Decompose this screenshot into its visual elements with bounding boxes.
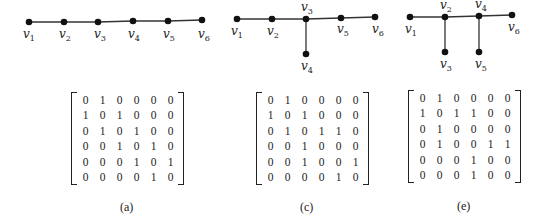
vertex-label: v5 <box>337 22 349 38</box>
matrix-cell: 0 <box>347 94 364 106</box>
right-bracket <box>515 90 521 183</box>
graph-edge <box>98 21 133 22</box>
matrix-cell: 0 <box>279 140 296 152</box>
graph-edge <box>306 18 341 19</box>
matrix-cell: 0 <box>482 107 499 119</box>
matrix-cell: 1 <box>94 94 111 106</box>
matrix-cell: 0 <box>414 92 431 104</box>
matrix-cell: 0 <box>128 140 145 152</box>
matrix-cell: 1 <box>482 138 499 150</box>
matrix-cell: 0 <box>499 154 516 166</box>
matrix-row: 010000 <box>414 90 516 106</box>
panel-caption-a: (a) <box>120 200 133 215</box>
matrix-cell: 0 <box>262 156 279 168</box>
vertex-label: v1 <box>231 24 243 40</box>
graph-vertex <box>234 16 241 23</box>
matrix-cell: 0 <box>330 156 347 168</box>
matrix-cell: 0 <box>162 140 179 152</box>
matrix-row: 010100 <box>77 123 179 139</box>
vertex-label: v6 <box>372 22 384 38</box>
matrix-row: 000010 <box>77 170 179 186</box>
graph-vertex <box>407 14 414 21</box>
matrix-row: 000100 <box>414 152 516 168</box>
matrix-cell: 1 <box>94 125 111 137</box>
matrix-cell: 0 <box>77 94 94 106</box>
matrix-row: 101000 <box>77 108 179 124</box>
graph-vertex <box>130 18 137 25</box>
matrix-row: 010000 <box>262 92 364 108</box>
graph-vertex <box>303 16 310 23</box>
vertex-label: v3 <box>94 27 106 43</box>
matrix-cell: 0 <box>77 171 94 183</box>
matrix-cell: 0 <box>162 109 179 121</box>
matrix-cell: 0 <box>279 171 296 183</box>
matrix-cell: 0 <box>162 125 179 137</box>
matrix-cell: 0 <box>111 94 128 106</box>
matrix-cell: 0 <box>162 94 179 106</box>
adjacency-matrix-a: 010000101000010100001010000101000010 <box>77 92 179 185</box>
graph-vertex <box>372 14 379 21</box>
matrix-cell: 0 <box>330 109 347 121</box>
matrix-row: 010110 <box>262 123 364 139</box>
figure: v1v2v3v4v5v6v1v2v3v4v5v6v1v2v3v4v5v6 010… <box>0 0 540 216</box>
left-bracket <box>71 92 77 185</box>
matrix-row: 101000 <box>262 108 364 124</box>
matrix-cell: 0 <box>111 156 128 168</box>
matrix-cell: 0 <box>499 169 516 181</box>
matrix-cell: 0 <box>330 140 347 152</box>
matrix-cell: 0 <box>262 171 279 183</box>
panel-caption-c: (c) <box>300 200 313 215</box>
matrix-cell: 0 <box>448 169 465 181</box>
graph-edge <box>168 20 202 21</box>
matrix-cell: 1 <box>465 107 482 119</box>
matrix-row: 010011 <box>414 137 516 153</box>
vertex-label: v5 <box>163 27 175 43</box>
matrix-cell: 0 <box>111 171 128 183</box>
matrix-cell: 0 <box>313 171 330 183</box>
matrix-cell: 1 <box>296 109 313 121</box>
vertex-label: v3 <box>440 57 452 73</box>
graph-a: v1v2v3v4v5v6 <box>23 17 210 43</box>
matrix-cell: 0 <box>94 109 111 121</box>
matrix-cell: 0 <box>111 125 128 137</box>
matrix-cell: 1 <box>448 107 465 119</box>
graph-vertex <box>442 49 449 56</box>
matrix-row: 101100 <box>414 106 516 122</box>
matrix-cell: 0 <box>279 156 296 168</box>
matrix-row: 000101 <box>77 154 179 170</box>
matrix-cell: 0 <box>313 156 330 168</box>
matrix-cell: 0 <box>347 109 364 121</box>
matrix-cell: 1 <box>111 109 128 121</box>
matrix-cell: 0 <box>77 156 94 168</box>
vertex-label: v4 <box>475 0 487 13</box>
matrix-cell: 0 <box>262 140 279 152</box>
matrix-cell: 0 <box>77 125 94 137</box>
matrix-cell: 1 <box>296 156 313 168</box>
matrix-cell: 0 <box>499 92 516 104</box>
matrix-cell: 1 <box>145 171 162 183</box>
graph-vertex <box>442 14 449 21</box>
matrix-cell: 1 <box>330 125 347 137</box>
matrix-cell: 1 <box>262 109 279 121</box>
graph-vertex <box>509 12 516 19</box>
graph-edge <box>479 15 512 16</box>
matrix-cell: 1 <box>465 169 482 181</box>
right-bracket <box>363 92 369 185</box>
graph-vertex <box>476 13 483 20</box>
matrix-cell: 0 <box>279 109 296 121</box>
graph-e: v1v2v3v4v5v6 <box>405 0 520 73</box>
matrix-cell: 1 <box>279 125 296 137</box>
matrix-cell: 0 <box>448 123 465 135</box>
matrix-cell: 0 <box>347 140 364 152</box>
right-bracket <box>178 92 184 185</box>
vertex-label: v2 <box>440 0 452 14</box>
matrix-cell: 1 <box>279 94 296 106</box>
matrix-cell: 0 <box>94 140 111 152</box>
graph-vertex <box>269 16 276 23</box>
matrix-cell: 1 <box>162 156 179 168</box>
matrix-cell: 0 <box>145 125 162 137</box>
matrix-cell: 1 <box>128 125 145 137</box>
matrix-cell: 0 <box>414 169 431 181</box>
vertex-label: v2 <box>59 27 71 43</box>
matrix-cell: 0 <box>77 140 94 152</box>
